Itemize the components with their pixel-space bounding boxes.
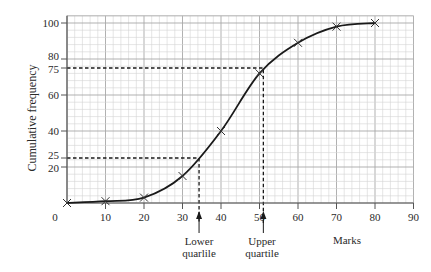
x-tick-label: 40 [216, 211, 228, 223]
x-tick-label: 30 [177, 211, 189, 223]
y-tick-label: 80 [48, 50, 60, 62]
x-tick-label: 10 [100, 211, 112, 223]
y-tick-label: 20 [48, 162, 60, 174]
upper-quartile-label-line2: quartile [245, 247, 279, 259]
x-tick-label: 80 [370, 211, 382, 223]
lower-quartile-label-line1: Lower [185, 235, 214, 247]
x-tick-label: 60 [293, 211, 305, 223]
x-tick-label: 0 [52, 211, 58, 223]
x-axis-label: Marks [333, 234, 361, 246]
arrow-head-icon [196, 211, 202, 219]
x-tick-label: 70 [331, 211, 343, 223]
y-tick-label: 100 [43, 17, 60, 29]
x-tick-label: 20 [139, 211, 151, 223]
grid [67, 16, 414, 203]
upper-quartile-annotation: Upper quartile [245, 235, 279, 259]
upper-quartile-label-line1: Upper [248, 235, 276, 247]
y-axis-label: Cumulative frequency [25, 65, 39, 172]
plot-area: 0102030405060708090202540607580100 Cumul… [0, 0, 431, 272]
y-tick-label: 40 [48, 125, 60, 137]
y-tick-label: 25 [48, 149, 60, 161]
y-tick-label: 60 [48, 89, 60, 101]
x-tick-label: 90 [408, 211, 420, 223]
lower-quartile-label-line2: quarlile [182, 247, 216, 259]
lower-quartile-annotation: Lower quarlile [182, 235, 216, 259]
cumulative-frequency-chart: 0102030405060708090202540607580100 Cumul… [0, 0, 431, 272]
tick-labels: 0102030405060708090202540607580100 [43, 17, 420, 223]
y-tick-label: 75 [48, 63, 60, 75]
